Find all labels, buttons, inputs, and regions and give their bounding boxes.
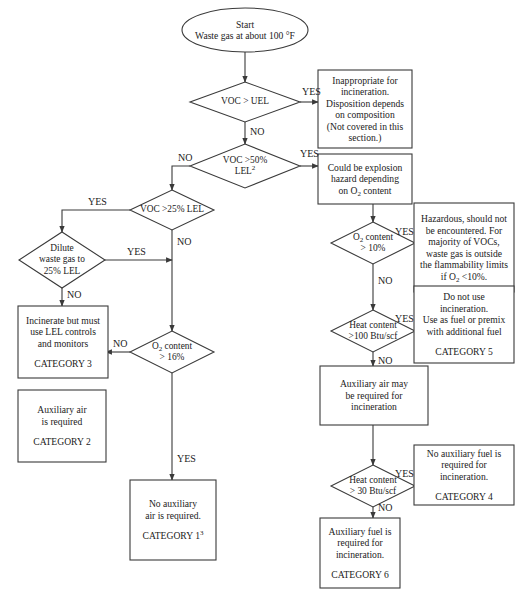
node-text-line: incineration.	[440, 303, 488, 315]
edge-d-voc-50-to-d-voc-25	[172, 166, 190, 190]
node-label-start: StartWaste gas at about 100 °F	[182, 8, 308, 52]
node-text-line: O2 content	[152, 341, 192, 353]
node-text-line: section.)	[349, 132, 382, 144]
node-text-line: Auxiliary air may	[340, 378, 408, 390]
node-text-line: waste gas is outside	[426, 248, 502, 260]
edge-label-yes: YES	[127, 246, 146, 257]
edge-label-yes: YES	[395, 468, 414, 479]
node-text-line: (Not covered in this	[327, 121, 403, 133]
node-text-line: is required	[42, 416, 83, 428]
node-text-line: if O2 <10%.	[441, 271, 487, 283]
node-label-b-cat6: Auxiliary fuel isrequired forincineratio…	[320, 518, 400, 588]
node-text-line: LEL2	[235, 166, 256, 178]
node-text-line: CATEGORY 13	[143, 530, 204, 542]
node-label-b-cat1: No auxiliaryair is required.CATEGORY 13	[130, 480, 216, 560]
node-text-line: incineration	[351, 401, 397, 413]
node-text-line: and monitors	[38, 338, 88, 350]
node-label-b-cat2: Auxiliary airis requiredCATEGORY 2	[18, 390, 106, 462]
node-text-line: VOC >25% LEL	[140, 204, 204, 216]
node-text-line: hazard depending	[331, 173, 399, 185]
node-text-line: > 30 Btu/scf	[350, 486, 396, 498]
node-text-line: CATEGORY 5	[435, 346, 492, 358]
node-text-line: the flammability limits	[420, 259, 508, 271]
node-text-line: required for	[441, 459, 487, 471]
node-text-line: Auxiliary fuel is	[329, 526, 392, 538]
edge-label-yes: YES	[300, 148, 319, 159]
node-text-line: incineration.	[341, 86, 389, 98]
edge-label-yes: YES	[302, 86, 321, 97]
edge-d-voc-25-to-d-dilute	[62, 210, 130, 232]
node-text-line: air is required.	[145, 510, 201, 522]
node-text-line: be encountered. For	[426, 225, 502, 237]
node-label-d-voc-uel: VOC > UEL	[190, 82, 300, 122]
node-text-line: majority of VOCs,	[428, 236, 500, 248]
node-text-line: Incinerate but must	[26, 315, 100, 327]
node-text-line: VOC > UEL	[221, 96, 269, 108]
node-text-line: Heat content	[349, 475, 397, 487]
node-text-line: incineration.	[336, 549, 384, 561]
node-text-line: on O2 content	[338, 185, 391, 197]
node-text-line: Use as fuel or premix	[423, 314, 506, 326]
node-text-line: No auxiliary fuel is	[427, 448, 501, 460]
node-text-line: Start	[236, 19, 254, 31]
edge-label-no: NO	[67, 289, 81, 300]
node-text-line: Disposition depends	[326, 98, 404, 110]
node-text-line: Waste gas at about 100 °F	[195, 30, 295, 42]
edge-label-no: NO	[250, 126, 264, 137]
edge-label-no: NO	[113, 338, 127, 349]
node-text-line: CATEGORY 6	[331, 569, 388, 581]
node-text-line: Inappropriate for	[332, 75, 397, 87]
node-text-line: on composition	[335, 109, 394, 121]
node-text-line: Auxiliary air	[37, 404, 86, 416]
node-text-line: with additional fuel	[426, 326, 501, 338]
edge-label-yes: YES	[177, 453, 196, 464]
edge-label-no: NO	[378, 275, 392, 286]
node-label-b-inappropriate: Inappropriate forincineration.Dispositio…	[318, 70, 412, 148]
node-text-line: CATEGORY 4	[435, 491, 492, 503]
edge-label-yes: YES	[395, 313, 414, 324]
node-text-line: O2 content	[353, 232, 393, 244]
node-label-b-explosion: Could be explosionhazard dependingon O2 …	[318, 154, 412, 204]
edge-label-yes: YES	[88, 196, 107, 207]
node-text-line: > 16%	[160, 352, 185, 364]
node-text-line: incineration.	[440, 471, 488, 483]
node-label-b-cat4: No auxiliary fuel isrequired forincinera…	[414, 445, 514, 505]
node-label-b-cat3: Incinerate but mustuse LEL controlsand m…	[18, 306, 108, 378]
node-text-line: use LEL controls	[30, 326, 96, 338]
node-text-line: Dilute	[50, 243, 73, 255]
node-text-line: >100 Btu/scf	[349, 331, 398, 343]
node-text-line: waste gas to	[39, 254, 85, 266]
edge-label-no: NO	[177, 236, 191, 247]
node-text-line: 25% LEL	[44, 266, 81, 278]
node-text-line: Do not use	[443, 291, 485, 303]
node-text-line: CATEGORY 3	[34, 358, 91, 370]
edge-label-no: NO	[178, 152, 192, 163]
node-text-line: > 10%	[361, 243, 386, 255]
edge-label-no: NO	[378, 355, 392, 366]
node-text-line: Heat content	[349, 320, 397, 332]
node-label-b-cat5: Do not useincineration.Use as fuel or pr…	[414, 286, 514, 363]
node-text-line: Could be explosion	[328, 162, 403, 174]
node-text-line: CATEGORY 2	[33, 436, 90, 448]
node-label-d-o2-16: O2 content> 16%	[130, 331, 214, 373]
node-text-line: Hazardous, should not	[421, 213, 507, 225]
edge-label-yes: YES	[395, 226, 414, 237]
node-text-line: VOC >50%	[223, 155, 268, 167]
node-text-line: be required for	[345, 390, 402, 402]
node-text-line: No auxiliary	[149, 498, 197, 510]
node-label-d-voc-25: VOC >25% LEL	[130, 190, 214, 230]
node-label-d-dilute: Dilutewaste gas to25% LEL	[19, 232, 105, 288]
edge-label-no: NO	[378, 502, 392, 513]
node-text-line: required for	[337, 537, 383, 549]
node-label-d-voc-50: VOC >50%LEL2	[190, 144, 300, 188]
node-label-b-hazardous: Hazardous, should notbe encountered. For…	[414, 203, 514, 292]
node-label-b-aux-air: Auxiliary air maybe required forincinera…	[320, 366, 428, 425]
